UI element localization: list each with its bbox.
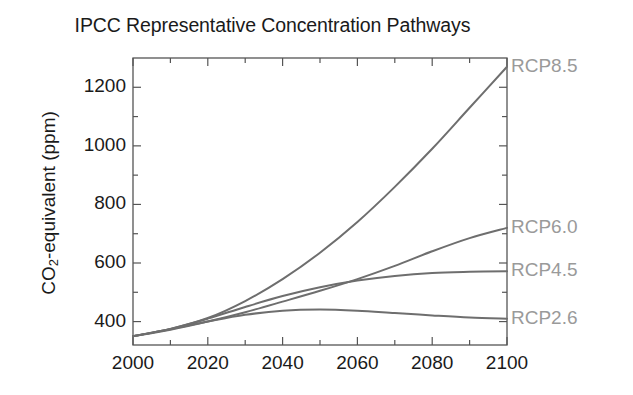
series-label-rcp2-6: RCP2.6 [511,307,578,329]
series-label-rcp8-5: RCP8.5 [511,55,578,77]
series-annotations: RCP8.5RCP6.0RCP4.5RCP2.6 [0,0,633,395]
series-label-rcp4-5: RCP4.5 [511,259,578,281]
series-label-rcp6-0: RCP6.0 [511,216,578,238]
chart-figure: IPCC Representative Concentration Pathwa… [0,0,633,395]
